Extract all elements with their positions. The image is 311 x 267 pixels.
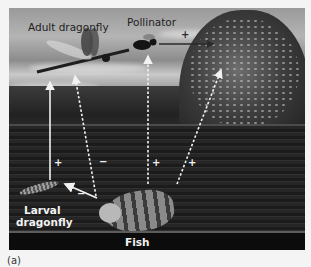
label-pollinator: Pollinator (127, 16, 176, 28)
label-adult-dragonfly: Adult dragonfly (28, 21, 109, 33)
pollinator-image (133, 34, 157, 50)
sign-larval-to-adult: + (54, 158, 62, 168)
sign-fish-to-pollinator: + (152, 158, 160, 168)
sign-pollinator-to-plant: + (181, 30, 189, 40)
label-larval-dragonfly-line1: Larval (24, 204, 60, 216)
food-web-photo: Adult dragonfly Pollinator Larval dragon… (9, 8, 305, 250)
sign-fish-to-adult: − (99, 157, 107, 167)
label-larval-dragonfly-line2: dragonfly (16, 216, 73, 228)
figure-caption: (a) (7, 255, 21, 266)
sign-fish-to-larval: − (77, 189, 85, 199)
adult-dragonfly-image (37, 28, 129, 72)
sign-fish-to-plant: + (188, 158, 196, 168)
label-fish: Fish (125, 236, 150, 248)
fish-label-bar (9, 231, 305, 250)
